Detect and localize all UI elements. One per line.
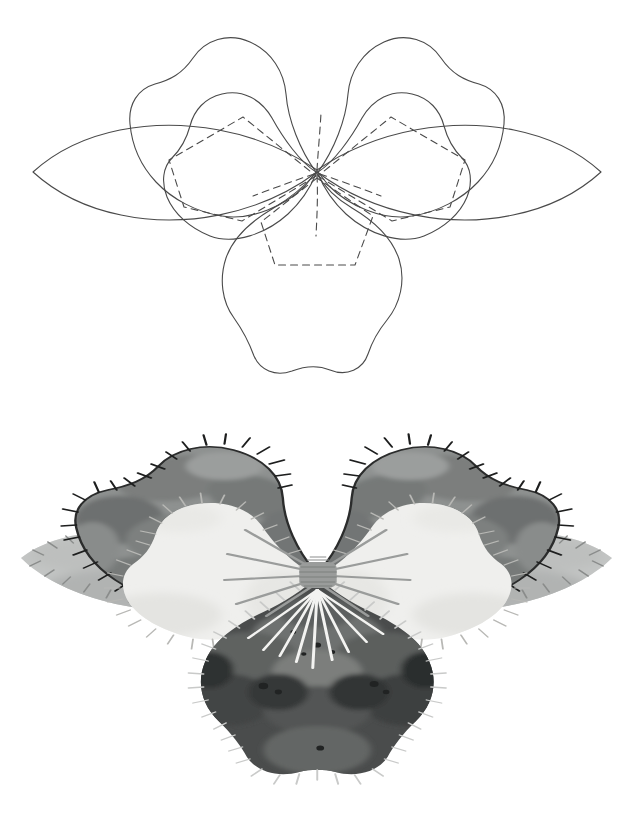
center-seam-up — [317, 113, 321, 170]
left-sepal-leaf-outline — [33, 125, 317, 220]
pattern-sheet — [0, 0, 633, 823]
line-drawing-canvas — [0, 0, 633, 400]
right-sepal-leaf-outline — [317, 125, 601, 220]
hidden-underlap-left — [169, 117, 316, 221]
line-pattern-diagram — [0, 0, 633, 400]
center-knot-top-wraps — [307, 557, 329, 560]
bottom-lip-petal-outline — [222, 172, 402, 373]
finished-felt-illustration — [0, 400, 633, 823]
center-seam-down — [316, 175, 317, 236]
hidden-underlap-right — [318, 117, 465, 221]
felt-illustration-canvas — [0, 400, 633, 823]
